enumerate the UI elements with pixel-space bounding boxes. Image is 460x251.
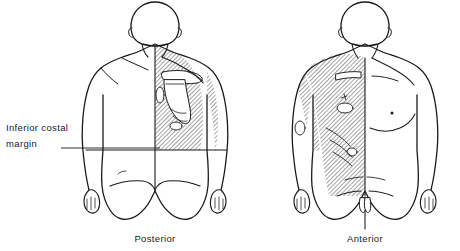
caption-anterior: Anterior <box>347 233 383 244</box>
rib-landmark-2 <box>347 148 357 156</box>
anterior-head <box>341 2 389 46</box>
costal-margin-label-line2: margin <box>6 138 37 149</box>
posterior-hand-left <box>84 190 100 213</box>
nipple-right <box>391 112 394 115</box>
anatomy-diagram: Posterior <box>0 0 460 251</box>
diagram-background <box>0 0 460 251</box>
costal-margin-label-line1: Inferior costal <box>6 122 68 133</box>
caption-posterior: Posterior <box>134 233 175 244</box>
posterior-hand-right <box>211 190 227 213</box>
rib-landmark-1 <box>337 103 353 113</box>
anterior-hand-right <box>421 190 437 213</box>
anterior-hand-left <box>294 190 310 213</box>
diagram-canvas: Posterior <box>0 0 460 251</box>
posterior-head <box>131 2 179 46</box>
